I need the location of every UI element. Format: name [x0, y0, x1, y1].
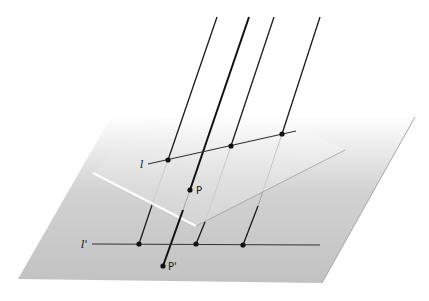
point-l-1 — [165, 157, 170, 162]
point-l-2 — [228, 143, 233, 148]
point-l-3 — [279, 131, 284, 136]
label-p-prime: P' — [168, 261, 177, 272]
point-l-prime-3 — [240, 242, 245, 247]
projection-diagram: l l' P P' — [0, 0, 429, 301]
point-l-prime-2 — [193, 241, 198, 246]
label-l: l — [140, 158, 144, 171]
point-p — [187, 187, 192, 192]
point-p-prime — [160, 263, 165, 268]
point-l-prime-1 — [136, 241, 141, 246]
label-p: P — [196, 185, 202, 196]
label-l-prime: l' — [81, 238, 88, 251]
